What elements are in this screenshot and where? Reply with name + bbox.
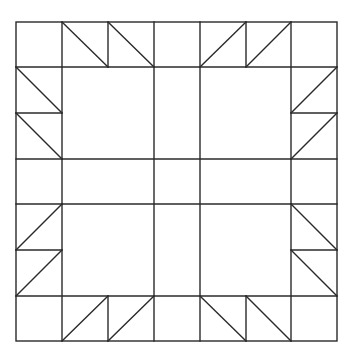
- quilt-block-diagram: [0, 0, 355, 355]
- grid-lines: [16, 22, 337, 341]
- half-square-triangle-diagonals: [16, 22, 337, 341]
- diagonal-line: [108, 296, 154, 341]
- diagonal-line: [291, 67, 337, 113]
- diagonal-line: [62, 22, 108, 67]
- diagonal-line: [108, 22, 154, 67]
- outer-border: [16, 22, 337, 341]
- diagonal-line: [200, 22, 246, 67]
- diagonal-line: [291, 250, 337, 296]
- diagonal-line: [62, 296, 108, 341]
- diagonal-line: [16, 67, 62, 113]
- diagonal-line: [291, 204, 337, 250]
- diagonal-line: [16, 250, 62, 296]
- diagonal-line: [16, 113, 62, 159]
- diagonal-line: [246, 22, 291, 67]
- diagonal-line: [291, 113, 337, 159]
- diagonal-line: [200, 296, 246, 341]
- diagonal-line: [16, 204, 62, 250]
- diagonal-line: [246, 296, 291, 341]
